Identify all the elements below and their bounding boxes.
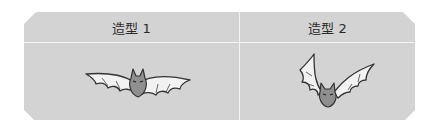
bat-wings-spread-icon [82, 62, 192, 102]
row-divider [24, 42, 415, 43]
bat-wings-raised-icon [288, 50, 378, 108]
column-header-costume-2: 造型 2 [240, 12, 415, 42]
column-divider [239, 12, 240, 120]
column-header-costume-1: 造型 1 [24, 12, 239, 42]
